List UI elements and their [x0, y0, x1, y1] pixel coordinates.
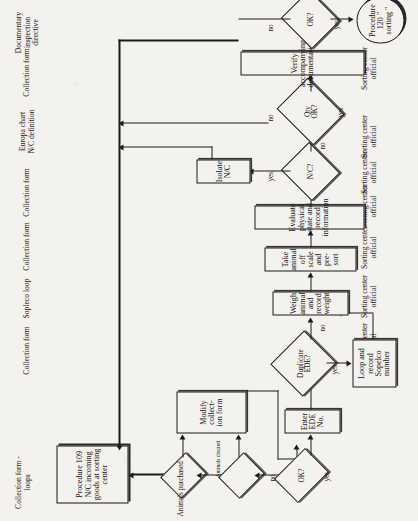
- start-terminal-label: Procedure 109 N/C incoming goods at sort…: [75, 448, 108, 500]
- process-modify-collection-form[interactable]: Modify collect- ion form: [176, 391, 246, 433]
- edge-label-ok1-no: no: [268, 474, 276, 481]
- return-bus-right-drop: [118, 39, 238, 41]
- process-isolate-nc-label: Isolate N/C: [215, 160, 232, 182]
- edge-label-ok2-yes: yes: [332, 19, 340, 29]
- weigh-to-take-arrow: [307, 272, 313, 277]
- dup-yes-arrow: [346, 360, 351, 366]
- decision-nc-label: N/C?: [306, 163, 313, 179]
- purchased-to-cleared-arrow: [196, 472, 201, 478]
- flowchart-canvas: Collection form - loops Collection form …: [0, 0, 418, 521]
- document-label-collection-form-1: Collection form: [22, 321, 31, 379]
- cleared-to-modify-arrow: [235, 434, 241, 439]
- edge-label-ok2-no: no: [266, 24, 274, 31]
- decision-nc[interactable]: N/C?: [288, 151, 332, 191]
- edge-label-animals-purchased: Animals purchased: [176, 461, 184, 516]
- decision-duplicate-ede-label: Duplicate EDE?: [296, 349, 311, 378]
- process-evaluate-physical-state-label: Evaluate physical state and record infor…: [288, 198, 330, 236]
- end-terminal-label: Procedure 120 " sorting ": [368, 2, 393, 38]
- isolate-nc-to-bus-arrow: [118, 144, 123, 150]
- decision-ok-1[interactable]: OK?: [284, 453, 318, 497]
- process-enter-ede-no-label: Enter EDE No.: [300, 412, 325, 430]
- edge-label-dup-yes: yes: [330, 364, 338, 374]
- edge-label-nc-yes: yes: [266, 171, 274, 181]
- edge-label-animals-cleared: Animals cleared: [214, 441, 220, 478]
- process-weigh-animal[interactable]: Weigh animal and record weight: [272, 291, 348, 315]
- modify-return-vert: [246, 390, 278, 391]
- edge-label-ok1-yes: yes: [322, 471, 330, 481]
- decision-duplicate-ede[interactable]: Duplicate EDE?: [280, 339, 326, 387]
- process-modify-collection-form-label: Modify collect- ion form: [199, 394, 224, 430]
- process-verify-documentation[interactable]: Verify accompanying documentation: [240, 51, 364, 75]
- isolate-nc-to-bus-line: [120, 146, 212, 147]
- nc-yes-line: [252, 170, 290, 171]
- process-loop-record-sopelco-label: Loop and record Sopelco number: [357, 342, 390, 384]
- purchased-to-modify-arrow: [179, 434, 185, 439]
- decision-qty-ok[interactable]: Qty OK?: [284, 89, 336, 133]
- return-bus-arrowhead: [116, 445, 122, 450]
- ok2-no-line: [238, 18, 290, 19]
- start-terminal[interactable]: Procedure 109 N/C incoming goods at sort…: [56, 445, 128, 503]
- decision-ok-1-label: OK?: [297, 468, 304, 482]
- purchased-to-modify-line: [182, 437, 183, 457]
- edge-label-qty-no: no: [266, 114, 274, 121]
- document-label-collection-form-2: Collection form: [22, 217, 31, 275]
- return-bus-line: [118, 39, 120, 445]
- dup-no-arrow: [307, 317, 313, 322]
- qty-no-to-bus-arrow: [118, 120, 123, 126]
- start-inflow-arrow: [128, 472, 133, 478]
- edge-label-qty-yes: yes: [336, 107, 344, 117]
- decision-animals-cleared[interactable]: [226, 457, 256, 493]
- process-isolate-nc[interactable]: Isolate N/C: [196, 159, 250, 183]
- process-take-animal-off-scale-label: Take animal off scale and pre-sort: [281, 248, 339, 270]
- dup-yes-line: [326, 362, 348, 363]
- document-label-sopleco-loop: Sopleco loop: [22, 271, 31, 325]
- document-label-inspection-directive: Documentary inspection directive: [14, 5, 40, 59]
- process-weigh-animal-label: Weigh animal and record weight: [289, 292, 331, 314]
- process-take-animal-off-scale[interactable]: Take animal off scale and pre-sort: [264, 247, 356, 271]
- process-loop-record-sopelco[interactable]: Loop and record Sopelco number: [352, 339, 396, 387]
- edge-label-dup-no: no: [318, 324, 326, 331]
- edge-label-nc-no: no: [318, 142, 326, 149]
- document-label-collection-form-3: Collection form: [22, 163, 31, 221]
- cleared-to-ok1-arrow: [254, 472, 259, 478]
- decision-qty-ok-label: Qty OK?: [303, 104, 318, 118]
- document-label-europa-chart: Europa chart N/C definition: [18, 99, 35, 163]
- modify-return-horiz: [277, 390, 278, 459]
- decision-ok-2[interactable]: OK?: [288, 0, 332, 39]
- cleared-to-modify-line: [238, 437, 239, 457]
- document-label-collection-form-loops: Collection form - loops: [14, 451, 31, 513]
- process-enter-ede-no[interactable]: Enter EDE No.: [284, 409, 340, 433]
- qty-no-to-bus-line: [120, 122, 268, 123]
- decision-ok-2-label: OK?: [306, 12, 313, 26]
- role-label-6: Sorting center official: [360, 107, 377, 165]
- ok1-to-ede-arrow: [307, 434, 313, 439]
- ok2-yes-arrow: [348, 16, 353, 22]
- process-evaluate-physical-state[interactable]: Evaluate physical state and record infor…: [254, 205, 364, 229]
- sopelco-to-weigh-line: [372, 313, 373, 339]
- end-terminal[interactable]: Procedure 120 " sorting ": [356, 0, 404, 43]
